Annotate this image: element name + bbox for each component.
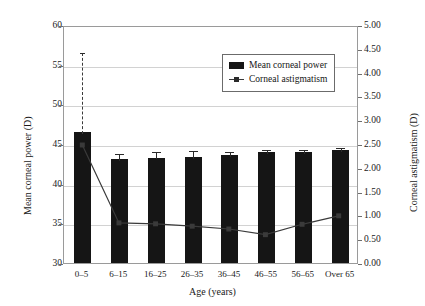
y-tick-right-label: 4.00 <box>364 69 381 79</box>
bar <box>111 159 128 263</box>
error-bar-cap <box>152 152 161 153</box>
error-bar-cap <box>299 150 308 151</box>
x-tick-label: 36–45 <box>211 270 248 279</box>
y-tick-right-label: 3.50 <box>364 92 381 102</box>
x-axis-title: Age (years) <box>0 286 425 297</box>
y-tick-right-label: 2.00 <box>364 164 381 174</box>
gridline <box>64 225 357 226</box>
chart-legend: Mean corneal power Corneal astigmatism <box>222 54 335 92</box>
x-tick-label: Over 65 <box>321 270 358 279</box>
error-bar-cap <box>262 150 271 151</box>
line-marker-swatch-icon <box>229 76 244 83</box>
x-tick-label: 26–35 <box>174 270 211 279</box>
legend-label-corneal-astigmatism: Corneal astigmatism <box>249 73 327 87</box>
y-tick-right-label: 4.50 <box>364 45 381 55</box>
gridline <box>64 146 357 147</box>
y-tick-right-label: 0.50 <box>364 235 381 245</box>
error-bar-line <box>193 151 194 159</box>
y-tick-right-label: 1.50 <box>364 188 381 198</box>
error-bar-cap <box>80 53 85 54</box>
bar <box>148 158 165 264</box>
x-tick-label: 16–25 <box>137 270 174 279</box>
y-tick-right-mark <box>358 193 362 194</box>
y-tick-right-mark <box>358 240 362 241</box>
x-tick-label: 6–15 <box>100 270 137 279</box>
chart-figure: Mean corneal power (D) Corneal astigmati… <box>0 0 425 306</box>
bar <box>295 152 312 263</box>
y-tick-right-mark <box>358 74 362 75</box>
y-tick-right-mark <box>358 97 362 98</box>
error-bar-line <box>156 152 157 159</box>
x-tick-label: 0–5 <box>63 270 100 279</box>
y-tick-right-mark <box>358 50 362 51</box>
y-tick-right-label: 5.00 <box>364 21 381 31</box>
legend-item-corneal-astigmatism: Corneal astigmatism <box>229 73 327 87</box>
gridline <box>64 186 357 187</box>
error-bar-cap <box>189 151 198 152</box>
x-tick-label: 56–65 <box>284 270 321 279</box>
y-tick-right-mark <box>358 145 362 146</box>
error-bar-line <box>82 53 83 134</box>
bar <box>185 157 202 263</box>
error-bar-cap <box>336 148 345 149</box>
gridline <box>64 106 357 107</box>
y-tick-right-label: 1.00 <box>364 211 381 221</box>
legend-label-mean-corneal-power: Mean corneal power <box>249 59 327 73</box>
y-tick-right-label: 0.00 <box>364 259 381 269</box>
x-tick-label: 46–55 <box>247 270 284 279</box>
bar-swatch-icon <box>229 62 244 69</box>
y-tick-right-mark <box>358 26 362 27</box>
y-tick-right-label: 2.50 <box>364 140 381 150</box>
bar <box>74 132 91 263</box>
y-axis-right-title: Corneal astigmatism (D) <box>408 113 419 212</box>
y-axis-left-title: Mean corneal power (D) <box>22 116 33 215</box>
bar <box>221 155 238 263</box>
bar <box>332 150 349 263</box>
legend-item-mean-corneal-power: Mean corneal power <box>229 59 327 73</box>
y-tick-right-mark <box>358 169 362 170</box>
error-bar-cap <box>225 152 234 153</box>
y-tick-right-label: 3.00 <box>364 116 381 126</box>
error-bar-line <box>119 154 120 161</box>
bar <box>258 152 275 263</box>
y-tick-right-mark <box>358 121 362 122</box>
y-tick-left-mark <box>59 264 63 265</box>
error-bar-cap <box>115 154 124 155</box>
y-tick-right-mark <box>358 264 362 265</box>
y-tick-right-mark <box>358 216 362 217</box>
